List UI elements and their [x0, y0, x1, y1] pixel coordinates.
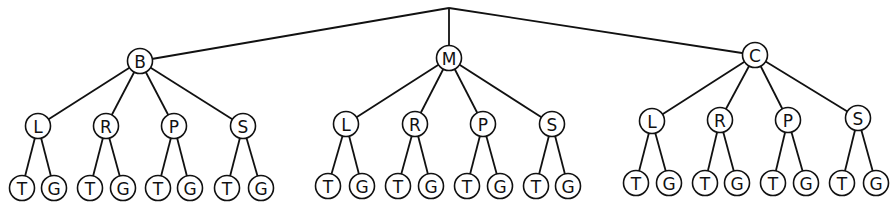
edge-C-L [652, 55, 755, 121]
tree-node-leaf: T [455, 174, 480, 199]
edge-B-S [140, 61, 243, 126]
tree-node-leaf: T [215, 176, 240, 201]
edge-B-L [38, 61, 140, 126]
tree-node-leaf: T [316, 174, 341, 199]
node-label: T [221, 179, 233, 199]
node-label: G [730, 174, 743, 194]
node-label: T [461, 177, 473, 197]
tree-node-subcategory: R [94, 114, 119, 139]
node-label: P [783, 111, 793, 131]
tree-node-leaf: T [761, 171, 786, 196]
tree-node-leaf: G [488, 174, 513, 199]
edge-root-C [449, 8, 755, 55]
tree-node-leaf: G [419, 174, 444, 199]
node-label: T [836, 174, 848, 194]
tree-node-category: M [437, 46, 462, 71]
node-label: T [322, 177, 334, 197]
node-label: R [714, 111, 726, 131]
tree-node-leaf: G [657, 171, 682, 196]
node-label: T [152, 179, 164, 199]
node-label: S [547, 115, 558, 135]
node-label: L [647, 112, 657, 132]
node-label: T [392, 177, 404, 197]
node-label: S [853, 109, 864, 129]
tree-diagram: BLTGRTGPTGSTGMLTGRTGPTGSTGCLTGRTGPTGSTG [0, 0, 890, 210]
node-label: G [493, 177, 506, 197]
node-label: G [116, 179, 129, 199]
tree-node-category: C [743, 43, 768, 68]
tree-node-subcategory: L [640, 109, 665, 134]
tree-node-leaf: G [42, 176, 67, 201]
tree-node-subcategory: P [471, 112, 496, 137]
tree-node-subcategory: R [708, 108, 733, 133]
tree-node-subcategory: P [162, 114, 187, 139]
tree-node-leaf: T [386, 174, 411, 199]
edge-root-B [140, 8, 449, 61]
tree-node-leaf: G [794, 171, 819, 196]
node-label: T [16, 179, 28, 199]
node-label: G [355, 177, 368, 197]
node-label: G [47, 179, 60, 199]
node-label: G [424, 177, 437, 197]
node-label: G [183, 179, 196, 199]
node-label: R [409, 115, 421, 135]
tree-node-leaf: G [556, 174, 581, 199]
node-label: P [478, 115, 488, 135]
node-label: R [100, 117, 112, 137]
node-label: G [869, 174, 882, 194]
tree-node-leaf: T [830, 171, 855, 196]
node-label: S [238, 117, 249, 137]
tree-node-subcategory: S [231, 114, 256, 139]
node-label: M [442, 49, 457, 69]
tree-node-subcategory: L [26, 114, 51, 139]
edge-M-S [449, 58, 552, 124]
tree-node-leaf: G [864, 171, 889, 196]
tree-node-subcategory: S [846, 106, 871, 131]
tree-node-leaf: T [693, 171, 718, 196]
tree-node-leaf: G [350, 174, 375, 199]
tree-node-leaf: G [111, 176, 136, 201]
edge-M-L [346, 58, 449, 124]
node-label: G [254, 179, 267, 199]
tree-node-leaf: T [78, 176, 103, 201]
node-label: T [630, 174, 642, 194]
tree-node-subcategory: S [540, 112, 565, 137]
node-label: B [134, 52, 146, 72]
node-label: L [33, 117, 43, 137]
tree-node-leaf: T [624, 171, 649, 196]
node-label: T [530, 177, 542, 197]
tree-node-subcategory: L [334, 112, 359, 137]
node-label: T [767, 174, 779, 194]
node-label: C [749, 46, 761, 66]
tree-node-leaf: G [725, 171, 750, 196]
node-label: G [561, 177, 574, 197]
node-label: L [341, 115, 351, 135]
node-label: G [662, 174, 675, 194]
tree-node-leaf: G [249, 176, 274, 201]
node-label: G [799, 174, 812, 194]
tree-node-leaf: T [10, 176, 35, 201]
tree-node-leaf: T [524, 174, 549, 199]
tree-node-leaf: T [146, 176, 171, 201]
tree-node-category: B [128, 49, 153, 74]
tree-node-leaf: G [178, 176, 203, 201]
tree-node-subcategory: P [776, 108, 801, 133]
tree-edges [22, 8, 876, 188]
node-label: T [84, 179, 96, 199]
tree-nodes: BLTGRTGPTGSTGMLTGRTGPTGSTGCLTGRTGPTGSTG [10, 43, 889, 201]
tree-node-subcategory: R [403, 112, 428, 137]
node-label: P [169, 117, 179, 137]
node-label: T [699, 174, 711, 194]
